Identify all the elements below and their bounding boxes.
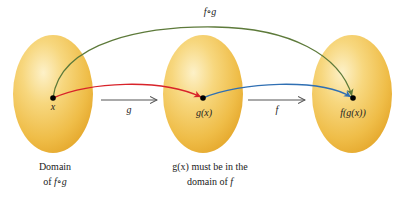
x-label: x: [50, 101, 56, 112]
domain-caption-math: f∘g: [54, 176, 67, 187]
intermediate-caption-line2: domain of f: [187, 176, 234, 187]
intermediate-caption-prefix: domain of: [187, 176, 230, 187]
composition-diagram: x g(x) f(g(x)) g f f∘g Domain of f∘g g(x…: [0, 0, 397, 203]
domain-caption-prefix: of: [43, 176, 54, 187]
gx-point: [200, 95, 206, 101]
f-arrow-label: f: [276, 104, 280, 115]
x-point: [50, 95, 56, 101]
intermediate-caption-math: f: [230, 176, 234, 187]
gx-label: g(x): [196, 107, 213, 119]
composition-label: f∘g: [204, 6, 217, 17]
fgx-point: [350, 95, 356, 101]
domain-caption-line1: Domain: [39, 161, 71, 172]
g-arrow-label: g: [127, 104, 132, 115]
domain-caption-line2: of f∘g: [43, 176, 67, 187]
intermediate-set-ellipse: [163, 35, 243, 153]
fgx-label: f(g(x)): [340, 107, 366, 119]
intermediate-caption-line1: g(x) must be in the: [172, 161, 248, 173]
